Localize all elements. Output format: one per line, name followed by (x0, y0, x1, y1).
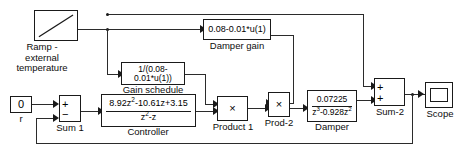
ramp-label: Ramp - external temperature (4, 42, 80, 74)
scope-label: Scope (418, 109, 461, 120)
constant-block[interactable]: 0 (10, 96, 32, 113)
controller-block[interactable]: 8.92z2-10.61z+3.15 z2-z (101, 94, 196, 127)
controller-numerator: 8.92z2-10.61z+3.15 (109, 99, 187, 108)
damper-block[interactable]: 0.07225 z3-0.928z2 (307, 90, 357, 122)
gain-schedule-expression: 1/(0.08-0.01*u(1)) (122, 65, 184, 83)
wire-ramp-to-sum2-top (107, 14, 364, 15)
ramp-block[interactable] (34, 10, 78, 41)
damper-gain-label: Damper gain (192, 41, 282, 52)
sum1-sign-minus: − (62, 109, 68, 120)
prod2-label: Prod-2 (256, 118, 302, 129)
controller-label: Controller (112, 127, 184, 138)
damper-numerator: 0.07225 (317, 95, 348, 104)
wire-dampergain-drop (293, 35, 294, 103)
damper-label: Damper (304, 122, 360, 133)
gain-schedule-block[interactable]: 1/(0.08-0.01*u(1)) (121, 62, 185, 85)
wire-gainsched-drop (205, 74, 206, 104)
product1-block[interactable]: × (217, 96, 248, 121)
wire-gainsched-out (185, 74, 206, 75)
sum2-label: Sum-2 (366, 107, 414, 118)
wire-feedback-bottom (36, 143, 413, 144)
sum2-sign-bottom: + (377, 93, 383, 104)
sum1-label: Sum 1 (45, 123, 95, 134)
product1-symbol: × (229, 103, 235, 115)
prod2-block[interactable]: × (268, 92, 290, 117)
damper-denominator: z3-0.928z2 (312, 108, 351, 117)
controller-denominator: z2-z (141, 113, 157, 122)
constant-value: 0 (18, 99, 24, 111)
wire-dampergain-out (271, 35, 294, 36)
block-diagram-canvas: Ramp - external temperature 0.08-0.01*u(… (0, 0, 461, 156)
wire-drop-to-sum2 (363, 14, 364, 86)
sum1-block[interactable]: + − (59, 95, 81, 122)
junction-ramp-top (106, 13, 109, 16)
damper-gain-expression: 0.08-0.01*u(1) (208, 25, 266, 34)
sum2-block[interactable]: + + (374, 78, 405, 106)
damper-gain-block[interactable]: 0.08-0.01*u(1) (203, 19, 271, 40)
ramp-icon (38, 14, 74, 38)
constant-label: r (5, 114, 37, 125)
wire-feedback-drop (412, 94, 413, 143)
scope-block[interactable] (425, 82, 453, 108)
scope-icon (430, 88, 448, 101)
ramp-label-line3: temperature (4, 63, 80, 74)
prod2-symbol: × (276, 99, 282, 111)
product1-label: Product 1 (205, 122, 261, 133)
arrow-scope-in (418, 90, 424, 98)
wire-ramp-to-gainsched (107, 29, 108, 74)
